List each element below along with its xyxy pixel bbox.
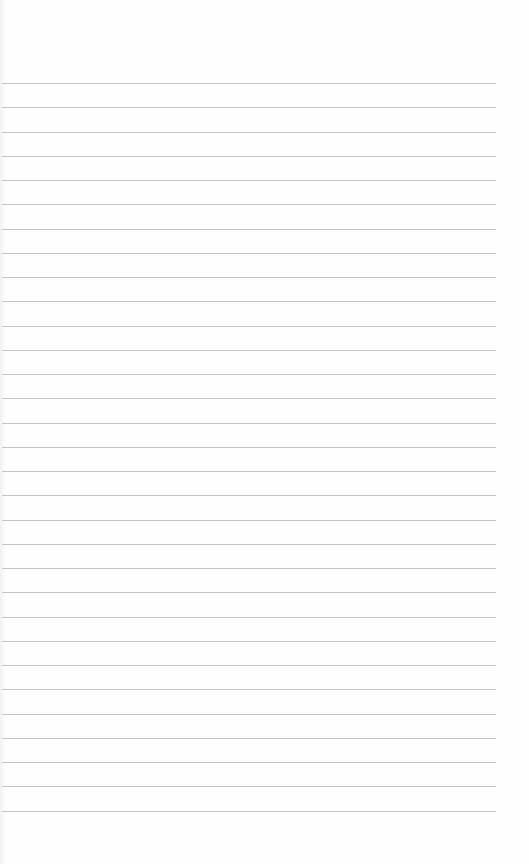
ruled-line [2,423,496,424]
ruled-line [2,350,496,351]
lined-paper [0,0,529,864]
ruled-line [2,107,496,108]
ruled-line [2,326,496,327]
ruled-line [2,592,496,593]
ruled-line [2,83,496,84]
ruled-line [2,689,496,690]
ruled-line [2,641,496,642]
paper-edge-shadow [0,0,6,864]
ruled-line [2,301,496,302]
ruled-line [2,495,496,496]
ruled-line [2,786,496,787]
ruled-line [2,180,496,181]
ruled-line [2,229,496,230]
ruled-line [2,714,496,715]
ruled-line [2,811,496,812]
ruled-line [2,544,496,545]
ruled-line [2,617,496,618]
ruled-line [2,447,496,448]
ruled-line [2,568,496,569]
ruled-line [2,156,496,157]
ruled-line [2,520,496,521]
ruled-line [2,204,496,205]
ruled-line [2,374,496,375]
ruled-line [2,738,496,739]
ruled-line [2,398,496,399]
ruled-line [2,471,496,472]
ruled-line [2,132,496,133]
ruled-line [2,253,496,254]
ruled-line [2,762,496,763]
ruled-line [2,665,496,666]
ruled-line [2,277,496,278]
